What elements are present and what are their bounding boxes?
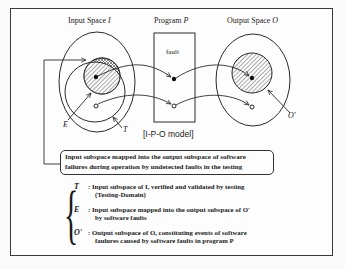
T-label: T <box>123 125 127 134</box>
callout-connector <box>44 60 86 164</box>
program-normal-point <box>172 104 176 108</box>
program-fault-point <box>172 77 176 81</box>
O-prime-pointer <box>268 90 290 113</box>
legend-item-O-prime: O': Output subspace of O, constituting e… <box>74 229 247 246</box>
map-arrow-normal-out <box>176 95 249 105</box>
callout-line-2: failures during operation by undetected … <box>65 163 269 173</box>
output-space-label: Output Space O <box>227 16 278 25</box>
E-label: E <box>63 120 68 129</box>
input-fault-point <box>94 75 98 79</box>
legend-item-T: T: Input subspace of I, verified and val… <box>74 183 244 200</box>
O-prime-label: O' <box>288 111 296 120</box>
program-label: Program P <box>154 16 188 25</box>
model-caption: [I-P-O model] <box>143 129 194 139</box>
output-normal-point <box>250 105 254 109</box>
input-normal-point <box>94 104 98 108</box>
callout-line-1: Input subspace mapped into the output su… <box>65 153 269 163</box>
E-pointer <box>68 93 91 120</box>
fault-label: fault <box>166 48 179 56</box>
callout-box: Input subspace mapped into the output su… <box>60 150 274 175</box>
subspace-O-prime-circle <box>232 53 272 93</box>
output-space <box>216 34 290 126</box>
map-arrow-normal-in <box>98 95 171 104</box>
input-space-label: Input Space I <box>68 16 111 25</box>
output-failure-point <box>250 76 254 80</box>
legend-item-E: E: Input subspace mapped into the output… <box>74 206 250 223</box>
